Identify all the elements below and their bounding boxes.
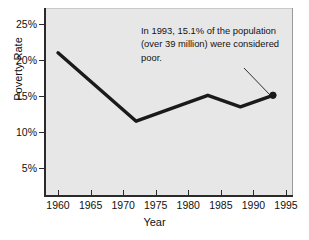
endpoint-marker-1993	[270, 92, 276, 98]
annotation-line-3: poor.	[141, 51, 293, 64]
annotation-callout: In 1993, 15.1% of the population (over 3…	[141, 24, 293, 64]
annotation-leader-line	[244, 68, 272, 97]
annotation-line-1: In 1993, 15.1% of the population	[141, 24, 293, 37]
poverty-rate-chart: 25%20%15%10%5% 1960196519701975198019851…	[0, 0, 309, 240]
annotation-line-2: (over 39 million) were considered	[141, 37, 293, 50]
